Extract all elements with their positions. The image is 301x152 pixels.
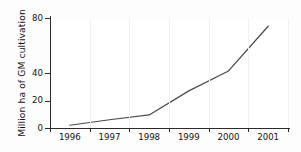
vertical-gridline xyxy=(169,18,170,128)
y-axis-tick xyxy=(45,101,50,102)
x-axis-tick xyxy=(209,128,210,132)
x-axis-tick xyxy=(129,128,130,132)
x-axis-tick-label: 1999 xyxy=(169,133,209,142)
x-axis-tick xyxy=(288,128,289,132)
vertical-gridline xyxy=(248,18,249,128)
y-axis-line xyxy=(50,16,51,129)
vertical-gridline xyxy=(209,18,210,128)
y-axis-tick xyxy=(45,18,50,19)
y-axis-tick xyxy=(45,73,50,74)
vertical-gridline xyxy=(90,18,91,128)
x-axis-line xyxy=(50,128,290,129)
x-axis-tick-label: 2001 xyxy=(248,133,288,142)
y-axis-tick-label: 0 xyxy=(19,124,43,133)
vertical-gridline xyxy=(129,18,130,128)
x-axis-tick-label: 1997 xyxy=(90,133,130,142)
x-axis-tick xyxy=(248,128,249,132)
x-axis-tick xyxy=(50,128,51,132)
x-axis-tick xyxy=(169,128,170,132)
y-axis-tick-label: 20 xyxy=(19,96,43,105)
y-axis-tick-label: 80 xyxy=(19,14,43,23)
chart-figure: Million ha of GM cultivation 02040801996… xyxy=(0,0,301,152)
vertical-gridline xyxy=(288,18,289,128)
x-axis-tick-label: 2000 xyxy=(209,133,249,142)
x-axis-tick-label: 1998 xyxy=(129,133,169,142)
x-axis-tick xyxy=(90,128,91,132)
y-axis-tick-label: 40 xyxy=(19,69,43,78)
x-axis-tick-label: 1996 xyxy=(50,133,90,142)
